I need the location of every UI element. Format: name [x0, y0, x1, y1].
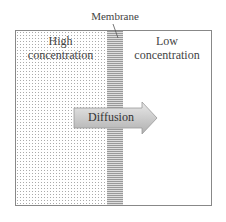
low-label-line1: Low: [122, 34, 212, 48]
high-label-line1: High: [15, 34, 106, 48]
high-concentration-label: High concentration: [15, 34, 106, 62]
diffusion-label: Diffusion: [78, 110, 144, 125]
low-label-line2: concentration: [122, 48, 212, 62]
low-concentration-label: Low concentration: [122, 34, 212, 62]
high-label-line2: concentration: [15, 48, 106, 62]
